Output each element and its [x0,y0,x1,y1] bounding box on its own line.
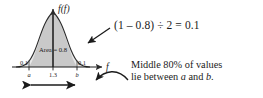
formula-callout-arrow [88,28,110,43]
x-axis-label: f [106,62,110,72]
distribution-plot: f(f) f Area = 0.8 0.1 0.1 a 1.3 b [0,0,263,98]
note-line-2: lie between a and b. [131,71,222,83]
note-callout-arrow [96,72,128,80]
formula-callout-text: (1 – 0.8) ÷ 2 = 0.1 [114,19,200,33]
center-area-label: Area = 0.8 [39,46,68,53]
tick-label-center: 1.3 [49,71,57,78]
y-axis-label: f(f) [58,4,70,15]
note-line-1: Middle 80% of values [131,59,222,71]
right-tail-label: 0.1 [78,59,86,66]
tick-label-b: b [75,71,78,78]
left-tail-label: 0.1 [20,59,28,66]
note-line-2-mid: and [186,71,206,82]
note-line-2-pre: lie between [131,71,181,82]
normal-distribution-figure: f(f) f Area = 0.8 0.1 0.1 a 1.3 b (1 – 0… [0,0,263,98]
tick-label-a: a [27,71,30,78]
note-callout-text: Middle 80% of values lie between a and b… [131,59,222,83]
note-line-2-post: . [211,71,214,82]
